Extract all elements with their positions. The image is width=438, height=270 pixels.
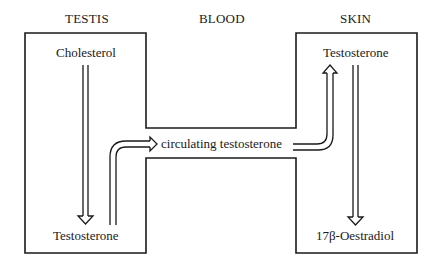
cholesterol-label: Cholesterol [56,46,116,59]
oestradiol-label: 17β-Oestradiol [316,229,394,242]
blood-header: BLOOD [199,12,245,25]
testis-testosterone-label: Testosterone [53,229,119,242]
curved-arrow-icon [293,65,337,150]
down-arrow-icon [348,65,363,225]
curved-arrow-icon [110,137,157,225]
skin-header: SKIN [340,12,371,25]
skin-testosterone-label: Testosterone [323,46,389,59]
circulating-testosterone-label: circulating testosterone [161,137,282,150]
testis-header: TESTIS [65,12,109,25]
down-arrow-icon [78,65,93,224]
